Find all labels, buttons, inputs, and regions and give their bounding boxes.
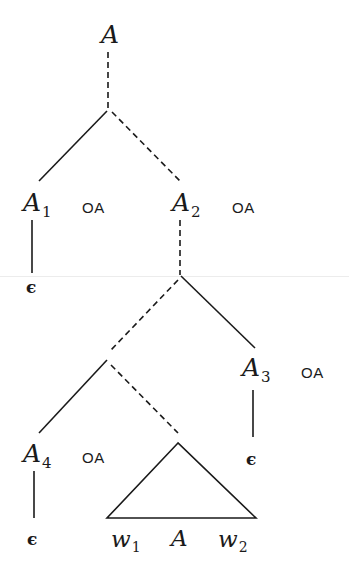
node-root: A <box>101 22 119 47</box>
node-eps1: ϵ <box>26 279 36 296</box>
node-a2: A2 <box>172 190 201 220</box>
node-a1-annotation: OA <box>82 200 105 215</box>
node-a4-label: A <box>23 439 41 468</box>
edge-branch2-a3 <box>181 276 255 348</box>
node-a3: A3 <box>242 355 271 385</box>
node-eps3: ϵ <box>246 451 256 468</box>
node-a4: A4 <box>23 441 52 471</box>
node-a3-label: A <box>242 353 260 382</box>
edge-branch2-branch3 <box>111 280 178 350</box>
node-a1-subscript: 1 <box>42 203 52 221</box>
edge-branch1-a1 <box>39 111 107 181</box>
subtree-left-word: w1 <box>111 528 141 554</box>
tree-edges <box>0 0 349 571</box>
subtree-right-word-subscript: 2 <box>239 539 248 555</box>
node-a1-label: A <box>23 188 41 217</box>
node-a2-annotation: OA <box>232 200 255 215</box>
edge-branch1-a2 <box>112 112 180 181</box>
subtree-foot-node: A <box>171 527 188 550</box>
node-eps4: ϵ <box>27 531 37 548</box>
node-a3-subscript: 3 <box>261 368 271 386</box>
node-a2-subscript: 2 <box>191 203 201 221</box>
node-root-label: A <box>101 20 119 49</box>
node-a2-label: A <box>172 188 190 217</box>
node-a4-subscript: 4 <box>42 454 52 472</box>
subtree-right-word: w2 <box>218 528 248 554</box>
node-a1: A1 <box>23 190 52 220</box>
node-a3-annotation: OA <box>301 365 324 380</box>
edge-branch3-a4 <box>39 360 107 433</box>
subtree-right-word-label: w <box>218 526 238 552</box>
node-a4-annotation: OA <box>82 450 105 465</box>
subtree-triangle <box>107 443 256 518</box>
edge-branch3-subtree <box>111 365 178 433</box>
tree-diagram: A A1 OA A2 OA ϵ A3 OA ϵ A4 OA ϵ w1 A w2 <box>0 0 349 571</box>
subtree-left-word-subscript: 1 <box>132 539 141 555</box>
subtree-left-word-label: w <box>111 526 131 552</box>
